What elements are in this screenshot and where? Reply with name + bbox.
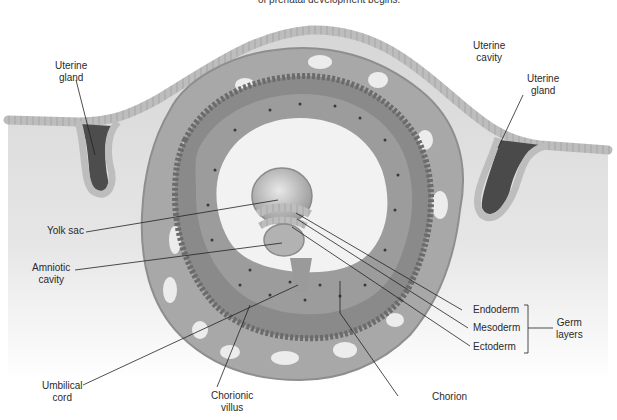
- label-uterine-cavity: Uterine cavity: [473, 40, 505, 64]
- label-chorion: Chorion: [432, 391, 467, 403]
- label-uterine-gland-right: Uterine gland: [527, 73, 559, 97]
- label-germ-layers: Germ layers: [556, 317, 583, 341]
- label-endoderm: Endoderm: [473, 304, 519, 316]
- label-chorionic-villus: Chorionic villus: [211, 390, 253, 414]
- embryo-implantation-diagram: of prenatal development begins. Uterine …: [0, 0, 617, 420]
- label-ectoderm: Ectoderm: [473, 341, 516, 353]
- label-umbilical-cord: Umbilical cord: [42, 380, 83, 404]
- label-uterine-gland-left: Uterine gland: [55, 60, 87, 84]
- label-mesoderm: Mesoderm: [473, 322, 520, 334]
- label-yolk-sac: Yolk sac: [47, 225, 84, 237]
- figure-caption: of prenatal development begins.: [258, 0, 400, 5]
- label-amniotic-cavity: Amniotic cavity: [32, 262, 70, 286]
- diagram-illustration: [0, 0, 617, 420]
- amniotic-sac: [264, 224, 304, 256]
